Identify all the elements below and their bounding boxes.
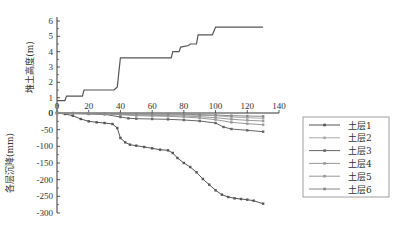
- legend-item-label: 土层6: [348, 184, 372, 195]
- x-tick-label: 80: [179, 101, 189, 111]
- y-tick-label: 1: [49, 93, 54, 103]
- legend: 土层1土层2土层3土层4土层5土层6: [303, 117, 389, 197]
- x-tick-label: 40: [116, 101, 126, 111]
- y-tick-label: 0: [49, 108, 54, 118]
- legend-item-label: 土层2: [348, 132, 372, 143]
- top-chart-axes: 0123456020406080100120140: [49, 16, 287, 118]
- y-tick-label: -50: [41, 125, 53, 135]
- y-tick-label: 4: [49, 47, 54, 57]
- bottom-chart-axes: 0-50-100-150-200-250-300: [37, 108, 61, 218]
- y-tick-label: -300: [37, 208, 54, 218]
- top-y-axis-label: 堆土高度(m): [24, 41, 35, 93]
- x-tick-label: 0: [55, 101, 60, 111]
- x-tick-label: 140: [272, 101, 286, 111]
- y-tick-label: 2: [49, 77, 54, 87]
- legend-item-label: 土层3: [348, 145, 372, 156]
- x-tick-label: 60: [148, 101, 158, 111]
- legend-item-label: 土层1: [348, 120, 372, 131]
- x-tick-label: 20: [84, 101, 94, 111]
- y-tick-label: 3: [49, 62, 54, 72]
- y-tick-label: -100: [37, 141, 54, 151]
- series-lines: [56, 27, 265, 205]
- y-tick-label: 6: [49, 16, 54, 26]
- x-tick-label: 100: [209, 101, 223, 111]
- x-tick-label: 120: [241, 101, 255, 111]
- legend-item-label: 土层4: [348, 158, 372, 169]
- legend-item-label: 土层5: [348, 171, 372, 182]
- settlement-line-1: [57, 113, 263, 204]
- y-tick-label: -250: [37, 191, 54, 201]
- y-tick-label: 5: [49, 31, 54, 41]
- bottom-y-axis-label: 各层沉降(mm): [4, 133, 15, 193]
- y-tick-label: -150: [37, 158, 54, 168]
- fill-height-line: [57, 27, 263, 101]
- y-tick-label: -200: [37, 175, 54, 185]
- settlement-chart: 0123456020406080100120140 0-50-100-150-2…: [0, 0, 393, 230]
